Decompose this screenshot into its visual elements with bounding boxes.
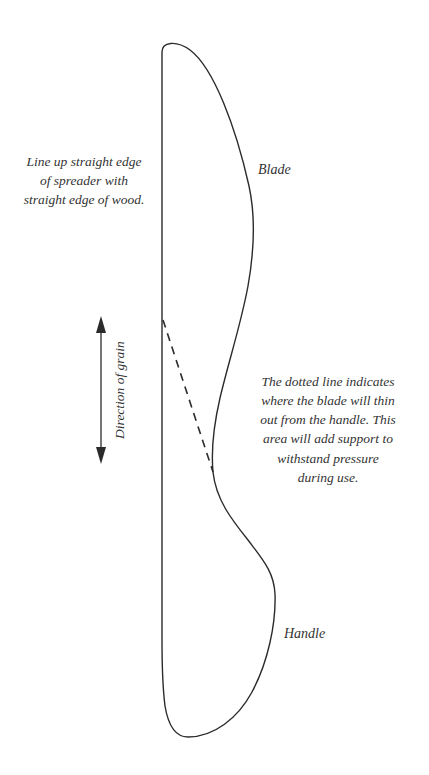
handle-label: Handle [284,626,325,642]
blade-thinning-dashed-line [163,320,213,472]
grain-direction-label: Direction of grain [110,312,130,468]
grain-direction-group: Direction of grain [84,312,140,468]
blade-label: Blade [258,162,291,178]
alignment-instruction-text: Line up straight edge of spreader with s… [14,152,154,209]
dotted-line-note-text: The dotted line indicates where the blad… [236,372,420,487]
spreader-template-diagram: Line up straight edge of spreader with s… [0,0,429,775]
